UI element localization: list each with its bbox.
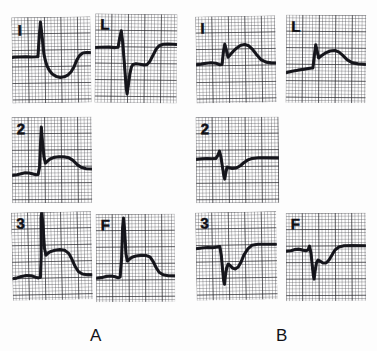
lead-label-lead-I: I: [200, 20, 204, 35]
lead-label-lead-aVF: F: [291, 216, 300, 231]
group-caption-a: A: [90, 326, 101, 346]
ecg-panel-lead-aVL-group-a: L: [95, 14, 178, 104]
ecg-panel-lead-III-group-a: 3: [11, 211, 93, 301]
lead-label-lead-III: 3: [200, 215, 209, 230]
group-caption-b: B: [276, 326, 287, 346]
ecg-panel-lead-II-group-b: 2: [196, 117, 280, 204]
ecg-figure: IL23FIL23FAB: [0, 0, 377, 351]
ecg-panel-lead-aVL-group-b: L: [286, 15, 367, 104]
ecg-panel-lead-I-group-b: I: [195, 15, 276, 103]
ecg-panel-lead-I-group-a: I: [11, 16, 91, 103]
lead-label-lead-aVL: L: [100, 17, 109, 32]
lead-label-lead-II: 2: [17, 121, 25, 136]
lead-label-lead-II: 2: [201, 121, 209, 136]
lead-label-lead-aVF: F: [101, 217, 110, 232]
ecg-trace-lead-I: [195, 15, 276, 103]
lead-label-lead-aVL: L: [291, 19, 300, 34]
ecg-panel-lead-II-group-a: 2: [12, 117, 93, 204]
ecg-trace-lead-I: [11, 16, 91, 103]
ecg-panel-lead-aVF-group-b: F: [286, 213, 366, 301]
lead-label-lead-I: I: [17, 22, 21, 37]
ecg-panel-lead-III-group-b: 3: [195, 211, 278, 300]
ecg-panel-lead-aVF-group-a: F: [96, 214, 176, 303]
lead-label-lead-III: 3: [16, 216, 25, 231]
